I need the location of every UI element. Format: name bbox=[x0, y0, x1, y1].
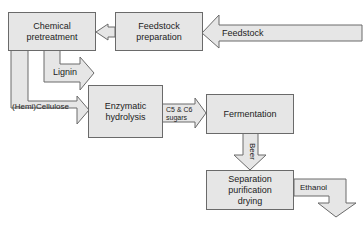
enzymatic-hydrolysis-box: Enzymatichydrolysis bbox=[88, 85, 163, 138]
prep-to-chemical-arrow bbox=[96, 24, 115, 40]
sugars-label-line2: sugars bbox=[166, 113, 187, 122]
cellulose-label: (Hemi)Cellulose bbox=[12, 102, 69, 111]
chemical-pretreatment-box: Chemicalpretreatment bbox=[8, 12, 96, 51]
lignin-label: Lignin bbox=[53, 68, 77, 77]
fermentation-box: Fermentation bbox=[206, 94, 294, 134]
separation-box: Separationpurificationdrying bbox=[206, 170, 294, 210]
feedstock-label: Feedstock bbox=[222, 29, 264, 38]
feedstock-preparation-box: Feedstockpreparation bbox=[115, 12, 203, 51]
ethanol-label: Ethanol bbox=[300, 183, 327, 192]
beer-label: Beer bbox=[248, 143, 257, 160]
